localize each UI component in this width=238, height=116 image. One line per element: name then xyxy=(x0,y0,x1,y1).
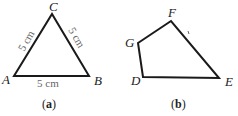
side-label-ab: 5 cm xyxy=(37,77,59,89)
vertex-label-e: E xyxy=(224,74,233,89)
vertex-label-b: B xyxy=(94,73,102,88)
quadrilateral-shape xyxy=(138,21,219,78)
vertex-label-g: G xyxy=(125,35,135,50)
quadrilateral-defg: F G D E (b) xyxy=(125,5,233,111)
vertex-label-a: A xyxy=(1,72,10,87)
vertex-label-d: D xyxy=(130,73,141,88)
tick-mark xyxy=(188,31,189,34)
triangle-abc: C A B 5 cm 5 cm 5 cm (a) xyxy=(1,0,102,111)
diagram-canvas: C A B 5 cm 5 cm 5 cm (a) F G D E (b) xyxy=(0,0,238,116)
vertex-label-f: F xyxy=(167,5,177,20)
caption-a: (a) xyxy=(42,97,56,111)
side-label-cb: 5 cm xyxy=(66,25,87,50)
vertex-label-c: C xyxy=(49,0,58,14)
side-label-ac: 5 cm xyxy=(15,28,36,53)
caption-b: (b) xyxy=(171,97,186,111)
